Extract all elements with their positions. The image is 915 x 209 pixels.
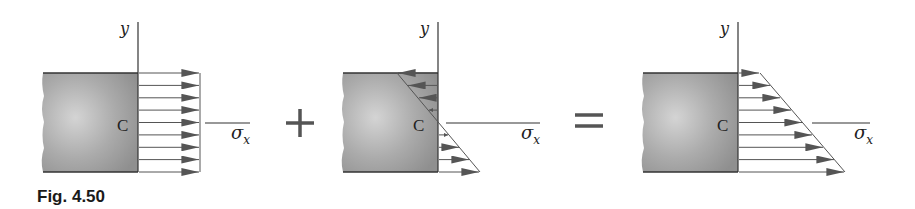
equals-operator — [575, 115, 603, 126]
panel-uniform-stress: y C σx — [42, 19, 251, 172]
y-axis-label: y — [119, 19, 130, 38]
centroid-label: C — [117, 116, 128, 135]
sigma-x-label: σx — [521, 122, 540, 147]
y-axis-label: y — [419, 19, 430, 38]
y-axis-label: y — [719, 19, 730, 38]
plus-operator — [286, 109, 314, 137]
sigma-x-label: σx — [231, 122, 250, 147]
stress-superposition-diagram: y C σx y C σx — [0, 0, 915, 209]
figure-caption: Fig. 4.50 — [37, 187, 105, 207]
centroid-label: C — [413, 116, 424, 135]
panel-combined-stress: y C σx — [642, 19, 874, 172]
stress-arrows — [139, 73, 199, 172]
tension-arrows — [439, 135, 479, 172]
panel-bending-stress: y C σx — [342, 19, 541, 172]
sigma-x-label: σx — [854, 122, 873, 147]
centroid-label: C — [717, 116, 728, 135]
